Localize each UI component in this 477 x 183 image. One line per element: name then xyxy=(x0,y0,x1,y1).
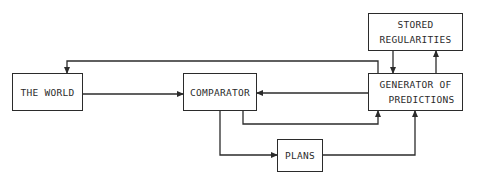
node-label: THE WORLD xyxy=(20,85,74,100)
node-generator-of-predictions: GENERATOR OF PREDICTIONS xyxy=(368,73,463,111)
node-the-world: THE WORLD xyxy=(12,73,83,111)
node-label-line-1: GENERATOR OF xyxy=(379,77,451,92)
node-comparator: COMPARATOR xyxy=(183,73,257,111)
edge-generator-to-world xyxy=(67,61,378,73)
node-label-line-2: REGULARITIES xyxy=(379,32,451,47)
edge-comparator-to-generator xyxy=(243,111,378,124)
node-label-line-2: PREDICTIONS xyxy=(388,92,454,107)
edge-comparator-to-plans xyxy=(220,111,277,155)
node-plans: PLANS xyxy=(277,139,323,172)
node-stored-regularities: STORED REGULARITIES xyxy=(368,13,463,51)
node-label: COMPARATOR xyxy=(190,85,250,100)
node-label: PLANS xyxy=(285,148,315,163)
node-label-line-1: STORED xyxy=(397,17,433,32)
edge-plans-to-generator xyxy=(323,111,415,155)
